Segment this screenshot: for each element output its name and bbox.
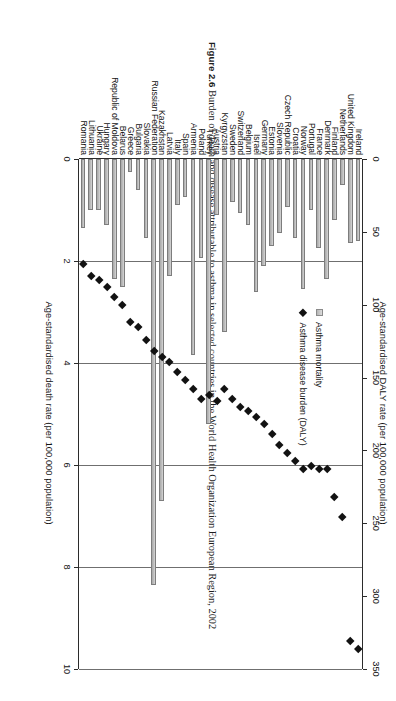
bar <box>151 159 156 585</box>
data-point-diamond <box>228 395 237 404</box>
data-point-diamond <box>94 275 103 284</box>
bar <box>159 159 164 501</box>
data-point-diamond <box>188 385 197 394</box>
bar <box>206 159 211 424</box>
bar <box>183 159 188 197</box>
legend-label: Asthma mortality <box>315 322 325 388</box>
bar <box>120 159 125 287</box>
bar <box>199 159 204 258</box>
data-point-diamond <box>322 465 331 474</box>
gridline <box>79 567 362 568</box>
bar <box>332 159 337 220</box>
data-point-diamond <box>181 376 190 385</box>
bar <box>348 159 353 243</box>
secondary-tick-label: 0 <box>371 156 381 161</box>
bar <box>96 159 101 210</box>
tick-mark <box>363 305 367 306</box>
bar <box>254 159 259 292</box>
secondary-tick-label: 250 <box>371 516 381 531</box>
secondary-tick-label: 300 <box>371 588 381 603</box>
data-point-diamond <box>251 412 260 421</box>
gridline <box>79 669 362 670</box>
bar <box>277 159 282 233</box>
data-point-diamond <box>338 513 347 522</box>
bar <box>301 159 306 289</box>
bar <box>214 159 219 215</box>
bar <box>112 159 117 279</box>
category-label: Romania <box>79 121 87 155</box>
tick-mark <box>363 596 367 597</box>
bar <box>128 159 133 172</box>
data-point-diamond <box>141 335 150 344</box>
tick-mark <box>74 669 78 670</box>
bar <box>167 159 172 276</box>
data-point-diamond <box>306 462 315 471</box>
data-point-diamond <box>220 385 229 394</box>
bar <box>356 159 361 241</box>
bar <box>324 159 329 279</box>
data-point-diamond <box>346 637 355 646</box>
bar <box>309 159 314 210</box>
secondary-tick-label: 50 <box>371 227 381 237</box>
legend-item: Asthma mortality <box>313 309 326 446</box>
axis-line <box>78 159 79 669</box>
data-point-diamond <box>314 465 323 474</box>
data-point-diamond <box>196 395 205 404</box>
data-point-diamond <box>291 456 300 465</box>
data-point-diamond <box>165 357 174 366</box>
bar <box>144 159 149 238</box>
secondary-tick-label: 150 <box>371 370 381 385</box>
chart: Age-standardised death rate (per 100,000… <box>30 40 390 700</box>
tick-mark <box>363 523 367 524</box>
primary-tick-label: 10 <box>62 664 72 674</box>
bar <box>191 159 196 355</box>
bar <box>285 159 290 207</box>
bar <box>230 159 235 202</box>
tick-mark <box>74 261 78 262</box>
data-point-diamond <box>283 449 292 458</box>
tick-mark <box>363 159 367 160</box>
primary-tick-label: 6 <box>62 462 72 467</box>
data-point-diamond <box>267 430 276 439</box>
tick-mark <box>363 450 367 451</box>
bar <box>136 159 141 190</box>
tick-mark <box>74 363 78 364</box>
primary-tick-label: 2 <box>62 258 72 263</box>
plot-area: IrelandUnited KingdomNetherlandsFinlandD… <box>79 158 362 669</box>
legend-item: Asthma disease burden (DALY) <box>297 309 310 446</box>
chart-container: Age-standardised death rate (per 100,000… <box>30 40 390 700</box>
legend-label: Asthma disease burden (DALY) <box>299 323 309 446</box>
primary-tick-label: 0 <box>62 156 72 161</box>
tick-mark <box>74 567 78 568</box>
bar <box>340 159 345 185</box>
data-point-diamond <box>212 396 221 405</box>
data-point-diamond <box>330 493 339 502</box>
data-point-diamond <box>275 440 284 449</box>
bar <box>293 159 298 238</box>
secondary-tick-label: 350 <box>371 661 381 676</box>
tick-mark <box>363 378 367 379</box>
figure-page: Figure 2.6 Burden of death and disease a… <box>0 0 396 701</box>
data-point-diamond <box>173 367 182 376</box>
tick-mark <box>363 232 367 233</box>
bar <box>246 159 251 225</box>
primary-tick-label: 8 <box>62 564 72 569</box>
square-icon <box>316 309 323 316</box>
data-point-diamond <box>118 300 127 309</box>
bar <box>175 159 180 205</box>
tick-mark <box>74 159 78 160</box>
primary-axis-title: Age-standardised death rate (per 100,000… <box>44 301 55 524</box>
secondary-tick-label: 100 <box>371 297 381 312</box>
bar <box>222 159 227 332</box>
bar <box>316 159 321 248</box>
data-point-diamond <box>102 283 111 292</box>
bar <box>81 159 86 228</box>
primary-tick-label: 4 <box>62 360 72 365</box>
bar <box>104 159 109 225</box>
data-point-diamond <box>243 407 252 416</box>
bar <box>269 159 274 246</box>
secondary-tick-label: 200 <box>371 443 381 458</box>
data-point-diamond <box>110 293 119 302</box>
tick-mark <box>74 465 78 466</box>
chart-legend: Asthma mortalityAsthma disease burden (D… <box>294 309 326 446</box>
